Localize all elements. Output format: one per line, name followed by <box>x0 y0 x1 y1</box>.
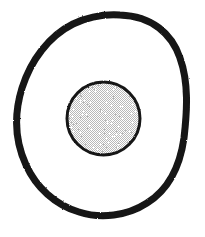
figure-canvas: Ovoid outline enclosing a stippled circl… <box>0 0 205 237</box>
line-drawing <box>0 0 205 237</box>
